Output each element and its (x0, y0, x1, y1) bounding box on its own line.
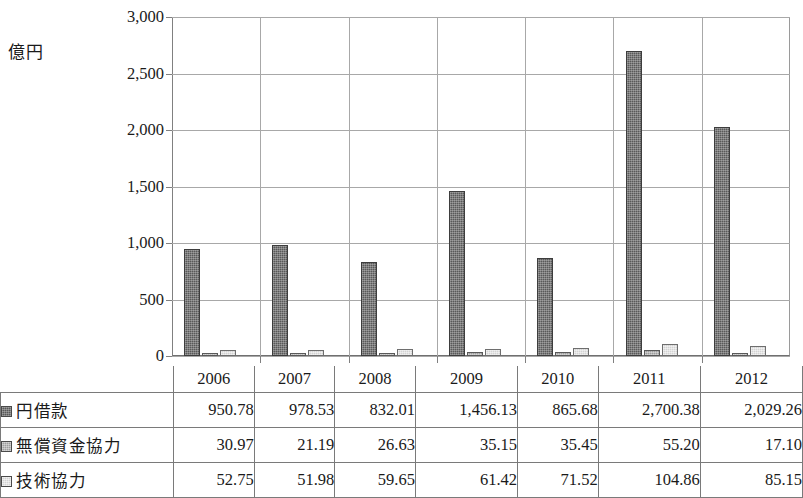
bar-円借款-2011 (626, 51, 642, 356)
category-separator (260, 17, 261, 356)
category-separator (437, 17, 438, 356)
bar-技術協力-2008 (397, 349, 413, 356)
table-cell-無償資金協力-2007: 21.19 (254, 428, 335, 463)
table-cell-技術協力-2010: 71.52 (518, 463, 599, 498)
bar-円借款-2009 (449, 191, 465, 356)
bar-円借款-2012 (714, 127, 730, 356)
y-axis-tick-labels: 05001,0001,5002,0002,5003,000 (92, 17, 164, 356)
data-table: 2006200720082009201020112012 円借款950.7897… (0, 366, 803, 498)
category-separator (702, 17, 703, 356)
plot-area (172, 17, 790, 356)
category-separator (349, 17, 350, 356)
y-axis-tick-label: 1,000 (127, 233, 164, 253)
table-cell-無償資金協力-2012: 17.10 (700, 428, 802, 463)
bar-技術協力-2007 (308, 350, 324, 356)
dark-gray-square-icon (1, 406, 12, 417)
bar-無償資金協力-2007 (290, 353, 306, 356)
y-axis-tick (166, 74, 172, 75)
table-body: 円借款950.78978.53832.011,456.13865.682,700… (1, 393, 803, 498)
y-axis-tick-label: 1,500 (127, 177, 164, 197)
bar-円借款-2006 (184, 249, 200, 356)
gridline (172, 187, 790, 188)
y-axis-tick-label: 500 (139, 290, 164, 310)
y-axis-tick (166, 130, 172, 131)
y-axis-tick (166, 187, 172, 188)
table-cell-無償資金協力-2009: 35.15 (415, 428, 517, 463)
y-axis-tick-label: 2,500 (127, 64, 164, 84)
bar-chart: 億円 05001,0001,5002,0002,5003,000 (0, 0, 803, 366)
bar-無償資金協力-2009 (467, 352, 483, 356)
table-cell-円借款-2007: 978.53 (254, 393, 335, 428)
y-axis-tick (166, 300, 172, 301)
category-axis-tick (349, 356, 350, 363)
category-axis-tick (437, 356, 438, 363)
y-axis-tick-label: 2,000 (127, 120, 164, 140)
y-axis-tick (166, 17, 172, 18)
table-row-label: 技術協力 (1, 463, 174, 498)
table-cell-無償資金協力-2008: 26.63 (335, 428, 416, 463)
category-axis-tick (260, 356, 261, 363)
series-name: 円借款 (16, 402, 69, 421)
category-separator (613, 17, 614, 356)
table-column-header-2006: 2006 (174, 366, 255, 393)
table-header-row: 2006200720082009201020112012 (1, 366, 803, 393)
table-cell-技術協力-2006: 52.75 (174, 463, 255, 498)
bar-無償資金協力-2010 (555, 352, 571, 356)
table-column-header-2011: 2011 (598, 366, 700, 393)
y-axis-tick-label: 3,000 (127, 7, 164, 27)
bar-技術協力-2012 (750, 346, 766, 356)
table-cell-円借款-2006: 950.78 (174, 393, 255, 428)
table-cell-技術協力-2008: 59.65 (335, 463, 416, 498)
table-row-label: 無償資金協力 (1, 428, 174, 463)
table-cell-円借款-2011: 2,700.38 (598, 393, 700, 428)
table-row-label: 円借款 (1, 393, 174, 428)
y-axis-tick-label: 0 (156, 346, 164, 366)
table-column-header-2012: 2012 (700, 366, 802, 393)
bar-円借款-2010 (537, 258, 553, 356)
table-cell-無償資金協力-2011: 55.20 (598, 428, 700, 463)
category-axis-tick (525, 356, 526, 363)
gridline (172, 243, 790, 244)
y-axis-tick (166, 356, 172, 357)
y-axis-unit-label: 億円 (8, 38, 44, 63)
table-cell-技術協力-2012: 85.15 (700, 463, 802, 498)
y-axis-tick (166, 243, 172, 244)
table-cell-円借款-2010: 865.68 (518, 393, 599, 428)
bar-無償資金協力-2008 (379, 353, 395, 356)
category-axis-tick (613, 356, 614, 363)
table-column-header-2007: 2007 (254, 366, 335, 393)
category-separator (525, 17, 526, 356)
series-name: 無償資金協力 (16, 437, 121, 456)
category-axis-tick (702, 356, 703, 363)
table-column-header-2010: 2010 (518, 366, 599, 393)
table-cell-技術協力-2007: 51.98 (254, 463, 335, 498)
bar-円借款-2008 (361, 262, 377, 356)
table-cell-無償資金協力-2006: 30.97 (174, 428, 255, 463)
table-cell-無償資金協力-2010: 35.45 (518, 428, 599, 463)
bar-技術協力-2011 (662, 344, 678, 356)
light-gray-square-icon (1, 476, 12, 487)
gridline (172, 74, 790, 75)
table-row: 円借款950.78978.53832.011,456.13865.682,700… (1, 393, 803, 428)
table-row: 技術協力52.7551.9859.6561.4271.52104.8685.15 (1, 463, 803, 498)
table-column-header-2009: 2009 (415, 366, 517, 393)
bar-無償資金協力-2012 (732, 353, 748, 356)
bar-技術協力-2006 (220, 350, 236, 356)
table-cell-円借款-2008: 832.01 (335, 393, 416, 428)
table-column-header-2008: 2008 (335, 366, 416, 393)
medium-gray-square-icon (1, 441, 12, 452)
table-cell-技術協力-2009: 61.42 (415, 463, 517, 498)
bar-円借款-2007 (272, 245, 288, 356)
gridline (172, 17, 790, 18)
bar-無償資金協力-2006 (202, 353, 218, 356)
table-cell-円借款-2009: 1,456.13 (415, 393, 517, 428)
bar-無償資金協力-2011 (644, 350, 660, 356)
series-name: 技術協力 (16, 472, 86, 491)
gridline (172, 356, 790, 357)
bar-技術協力-2009 (485, 349, 501, 356)
table-row: 無償資金協力30.9721.1926.6335.1535.4555.2017.1… (1, 428, 803, 463)
table-corner-cell (1, 366, 174, 393)
table-cell-技術協力-2011: 104.86 (598, 463, 700, 498)
gridline (172, 130, 790, 131)
table-cell-円借款-2012: 2,029.26 (700, 393, 802, 428)
